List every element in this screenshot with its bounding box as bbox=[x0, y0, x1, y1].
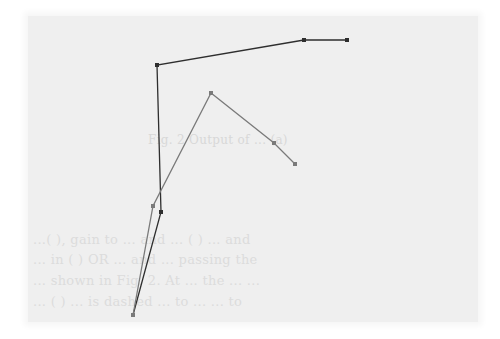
vertex-marker bbox=[209, 91, 213, 95]
vertex-marker bbox=[272, 141, 276, 145]
vertex-marker bbox=[155, 63, 159, 67]
gray-polyline bbox=[131, 91, 297, 317]
vertex-marker bbox=[151, 204, 155, 208]
vertex-marker bbox=[302, 38, 306, 42]
vertex-marker bbox=[293, 162, 297, 166]
polyline-overlay bbox=[0, 0, 500, 339]
vertex-marker bbox=[159, 210, 163, 214]
vertex-marker bbox=[131, 313, 135, 317]
dark-polyline bbox=[131, 38, 349, 317]
vertex-marker bbox=[345, 38, 349, 42]
gray-polyline-path bbox=[133, 93, 295, 315]
dark-polyline-path bbox=[133, 40, 347, 315]
